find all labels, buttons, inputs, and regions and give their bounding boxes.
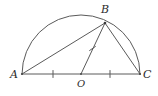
vertex-point-c <box>139 73 141 75</box>
vertex-label-a: A <box>10 69 18 80</box>
vertex-point-a <box>21 73 23 75</box>
geometry-figure: A B C O <box>0 0 158 96</box>
vertex-point-o <box>80 73 82 75</box>
vertex-label-c: C <box>143 69 151 80</box>
vertex-label-b: B <box>101 4 109 15</box>
vertex-point-b <box>104 22 107 25</box>
semicircle-arc <box>22 15 140 74</box>
vertex-label-o: O <box>77 78 85 89</box>
